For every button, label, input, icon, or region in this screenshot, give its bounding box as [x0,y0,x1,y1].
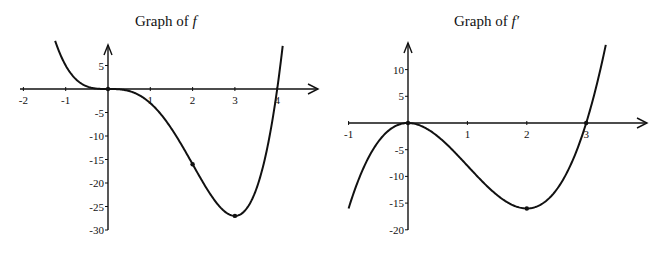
graph-fprime-y-tick-label: -20 [389,224,404,236]
graph-fprime-curve [349,45,606,209]
graph-fprime-marked-point [525,206,529,210]
graph-f-x-tick-label: -1 [61,94,70,106]
graph-fprime-y-tick-label: -10 [389,170,404,182]
graph-f-y-tick-label: 5 [99,60,105,72]
graph-fprime-plot: -1123105-5-10-15-20 [330,0,659,255]
graph-f-x-tick-label: -2 [19,94,28,106]
graph-f-y-tick-label: -15 [89,154,104,166]
graph-f-y-tick-label: -25 [89,201,104,213]
graph-f-x-tick-label: 3 [232,94,238,106]
graph-fprime-y-tick-label: -5 [395,144,405,156]
graph-fprime-x-tick-label: -1 [344,128,353,140]
graph-f-y-tick-label: -5 [95,107,105,119]
graph-f-panel: Graph of f -2-112345-5-10-15-20-25-30 [0,0,330,255]
graph-f-y-tick-label: -30 [89,224,104,236]
graph-f-x-tick-label: 2 [190,94,196,106]
graph-f-y-tick-label: -20 [89,177,104,189]
graph-fprime-y-tick-label: 10 [393,64,405,76]
graph-fprime-y-tick-label: -15 [389,197,404,209]
graph-f-marked-point [233,214,237,218]
graph-f-curve [55,41,283,216]
graph-fprime-x-tick-label: 2 [524,128,530,140]
graph-fprime-marked-point [584,121,588,125]
graph-f-y-tick-label: -10 [89,130,104,142]
graph-f-marked-point [190,162,194,166]
graph-fprime-marked-point [406,121,410,125]
graph-f-plot: -2-112345-5-10-15-20-25-30 [0,0,330,255]
graph-fprime-y-tick-label: 5 [399,90,405,102]
graph-fprime-x-tick-label: 1 [465,128,471,140]
graph-fprime-panel: Graph of f′ -1123105-5-10-15-20 [330,0,659,255]
graph-f-marked-point [106,87,110,91]
